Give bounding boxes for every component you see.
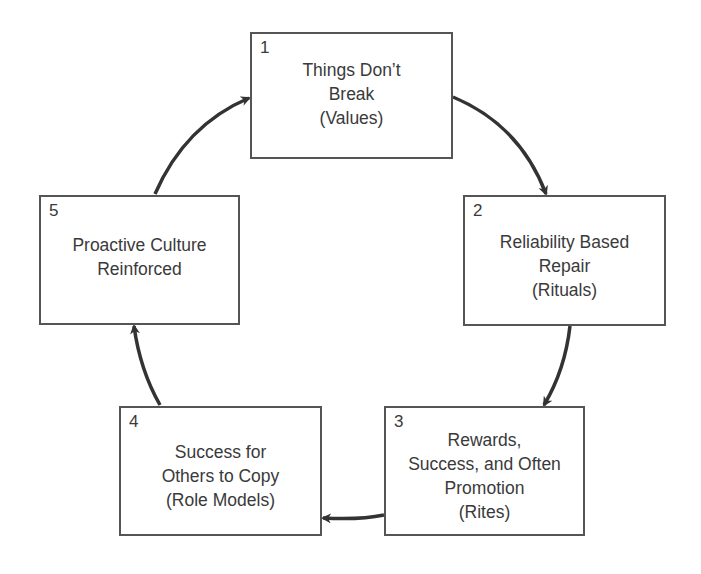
node-5-proactive-culture: 5 Proactive Culture Reinforced	[39, 195, 240, 325]
arrow-3-to-4	[323, 515, 384, 519]
node-label: Proactive Culture Reinforced	[41, 233, 238, 281]
node-label: Reliability Based Repair (Rituals)	[465, 230, 664, 302]
node-number: 4	[129, 412, 138, 432]
node-1-things-dont-break: 1 Things Don’t Break (Values)	[250, 32, 453, 159]
node-3-rewards-success-promotion: 3 Rewards, Success, and Often Promotion …	[384, 406, 585, 536]
arrow-2-to-3	[544, 326, 570, 405]
arrow-1-to-2	[453, 97, 546, 194]
node-number: 1	[260, 38, 269, 58]
node-number: 5	[49, 201, 58, 221]
arrow-5-to-1	[155, 98, 249, 194]
node-2-reliability-based-repair: 2 Reliability Based Repair (Rituals)	[463, 195, 666, 326]
node-4-success-for-others: 4 Success for Others to Copy (Role Model…	[119, 406, 322, 536]
node-label: Things Don’t Break (Values)	[252, 58, 451, 130]
arrow-4-to-5	[134, 326, 160, 405]
node-label: Success for Others to Copy (Role Models)	[121, 440, 320, 512]
node-number: 2	[473, 201, 482, 221]
node-label: Rewards, Success, and Often Promotion (R…	[386, 428, 583, 524]
